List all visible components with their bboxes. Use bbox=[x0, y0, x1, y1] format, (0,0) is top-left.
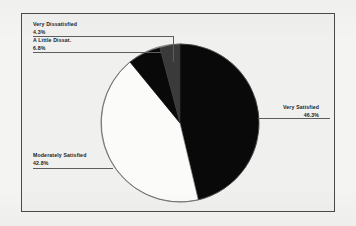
pie-chart-screenshot: Very Dissatisfied 4.3% A Little Dissat. … bbox=[0, 0, 356, 226]
slice-label-very-satisfied-text: Very Satisfied bbox=[283, 104, 319, 110]
slice-label-a-little-dissat: A Little Dissat. 6.8% bbox=[33, 37, 71, 52]
slice-label-very-satisfied: Very Satisfied 46.3% bbox=[283, 104, 319, 119]
slice-label-very-dissatisfied: Very Dissatisfied 4.3% bbox=[33, 21, 77, 36]
slice-label-a-little-dissat-text: A Little Dissat. bbox=[33, 37, 71, 43]
leader-line-very-dissatisfied-vertical bbox=[173, 36, 174, 62]
slice-label-very-dissatisfied-text: Very Dissatisfied bbox=[33, 21, 77, 27]
slice-label-moderately-satisfied-percent: 42.8% bbox=[33, 160, 86, 168]
leader-line-a-little-dissat bbox=[33, 52, 161, 53]
slice-label-very-dissatisfied-percent: 4.3% bbox=[33, 29, 77, 37]
slice-label-moderately-satisfied: Moderately Satisfied 42.8% bbox=[33, 152, 86, 167]
pie-svg bbox=[100, 43, 260, 203]
slice-label-very-satisfied-percent: 46.3% bbox=[283, 112, 319, 120]
slice-label-a-little-dissat-percent: 6.8% bbox=[33, 45, 71, 53]
pie-chart-graphic bbox=[100, 43, 260, 203]
slice-label-moderately-satisfied-text: Moderately Satisfied bbox=[33, 152, 86, 158]
leader-line-moderately-satisfied bbox=[33, 168, 113, 169]
